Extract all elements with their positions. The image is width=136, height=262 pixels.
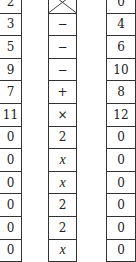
left-value-column: 2 3 5 9 7 11 0 0 0 0 0 0	[0, 0, 22, 262]
right-value-column: 0 4 6 10 8 12 0 0 0 0 0 0	[106, 0, 136, 262]
operator-cell: ×	[48, 104, 77, 127]
operand-cell: 2	[48, 217, 77, 240]
right-cell: 4	[106, 14, 136, 37]
right-cell: 0	[106, 217, 136, 240]
operator-cell: −	[48, 59, 77, 82]
left-cell: 0	[0, 172, 22, 195]
right-cell: 8	[106, 81, 136, 104]
right-cell: 10	[106, 59, 136, 82]
right-cell: 0	[106, 127, 136, 150]
right-cell: 12	[106, 104, 136, 127]
left-cell: 7	[0, 81, 22, 104]
left-cell: 2	[0, 0, 22, 14]
left-cell: 5	[0, 36, 22, 59]
operand-cell: 2	[48, 127, 77, 150]
right-cell: 0	[106, 240, 136, 262]
right-cell: 0	[106, 172, 136, 195]
right-cell: 0	[106, 0, 136, 14]
left-cell: 0	[0, 149, 22, 172]
right-cell: 6	[106, 36, 136, 59]
operator-column: − − − + × 2 x x 2 2 x	[48, 0, 77, 262]
cross-mark-icon	[49, 0, 76, 13]
left-cell: 0	[0, 217, 22, 240]
left-cell: 3	[0, 14, 22, 37]
left-cell: 9	[0, 59, 22, 82]
crossed-cell	[48, 0, 77, 14]
left-cell: 0	[0, 127, 22, 150]
right-cell: 0	[106, 149, 136, 172]
left-cell: 0	[0, 194, 22, 217]
variable-cell: x	[48, 172, 77, 195]
left-cell: 11	[0, 104, 22, 127]
operator-cell: −	[48, 36, 77, 59]
left-cell: 0	[0, 240, 22, 262]
operator-cell: +	[48, 81, 77, 104]
right-cell: 0	[106, 194, 136, 217]
variable-cell: x	[48, 149, 77, 172]
operand-cell: 2	[48, 194, 77, 217]
variable-cell: x	[48, 240, 77, 262]
operator-cell: −	[48, 14, 77, 37]
